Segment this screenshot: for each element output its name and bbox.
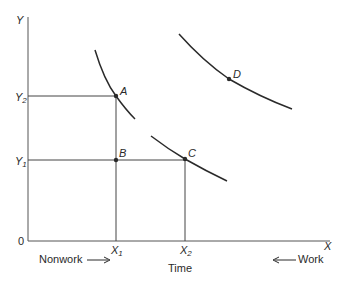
point-label-c: C bbox=[188, 147, 196, 159]
x-axis-label: X bbox=[323, 240, 332, 252]
point-a bbox=[114, 94, 118, 98]
work-label: Work bbox=[298, 253, 324, 265]
point-b bbox=[114, 158, 118, 162]
x2-tick-label: X2 bbox=[179, 244, 192, 258]
indifference-curve-1 bbox=[95, 50, 135, 119]
point-d bbox=[227, 77, 231, 81]
point-label-b: B bbox=[119, 147, 126, 159]
origin-label: 0 bbox=[18, 235, 24, 247]
y-axis-label: Y bbox=[16, 14, 24, 26]
nonwork-label: Nonwork bbox=[39, 253, 83, 265]
x1-tick-label: X1 bbox=[110, 244, 123, 258]
y2-tick-label: Y2 bbox=[15, 91, 27, 105]
point-label-a: A bbox=[119, 85, 127, 97]
right-arrow-icon bbox=[87, 257, 110, 263]
x-axis-title: Time bbox=[168, 262, 192, 274]
point-label-d: D bbox=[233, 68, 241, 80]
left-arrow-icon bbox=[273, 257, 296, 263]
point-c bbox=[183, 157, 187, 161]
y1-tick-label: Y1 bbox=[15, 155, 27, 169]
indifference-diagram: A B C D Y X 0 Y2 Y1 X1 X2 Time Nonwork W… bbox=[0, 0, 347, 283]
